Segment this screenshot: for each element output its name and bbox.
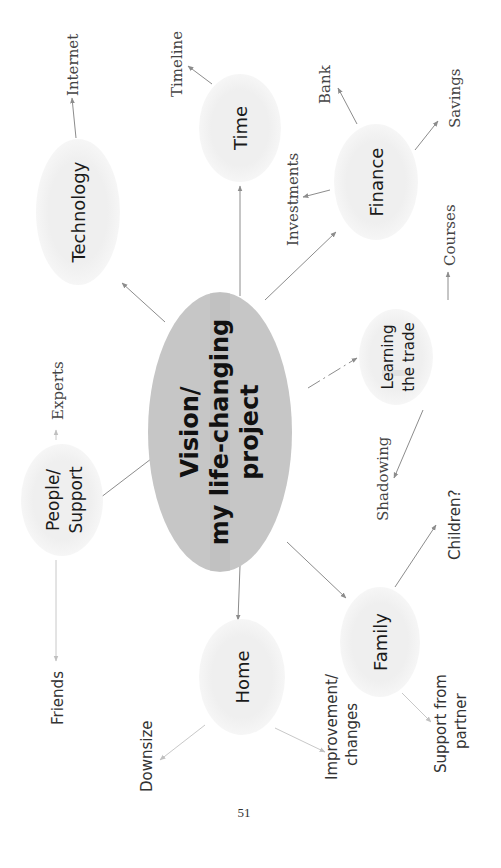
node-label-learning-2: the trade: [400, 322, 418, 391]
page-number: 51: [238, 805, 251, 820]
center-line-1: Vision/: [176, 386, 204, 477]
node-home[interactable]: Home: [199, 619, 285, 735]
node-label-time: Time: [230, 106, 251, 151]
edge-family-children: [395, 525, 436, 587]
edge-home-improvement: [275, 728, 325, 752]
node-label-home: Home: [232, 650, 253, 703]
leaf-shadowing: Shadowing: [374, 436, 392, 521]
leaf-downsize: Downsize: [138, 720, 156, 792]
leaf-internet: Internet: [64, 34, 82, 96]
leaf-courses: Courses: [441, 204, 459, 266]
edge-center-learning: [308, 358, 357, 388]
edge-finance-savings: [415, 121, 438, 150]
edge-center-home: [238, 566, 240, 620]
edge-finance-investments: [303, 190, 330, 197]
node-learning-the-trade[interactable]: Learning the trade: [359, 309, 433, 405]
mind-map: Vision/ my life-changing project Technol…: [0, 0, 501, 868]
edge-home-downsize: [160, 725, 205, 760]
leaf-bank: Bank: [316, 64, 334, 104]
leaf-support-from-partner: Support from partner: [432, 674, 470, 773]
node-label-finance: Finance: [366, 148, 387, 217]
leaf-friends: Friends: [49, 671, 67, 725]
node-label-technology: Technology: [68, 161, 89, 263]
node-family[interactable]: Family: [340, 587, 420, 697]
leaf-experts: Experts: [49, 361, 67, 420]
leaf-children: Children?: [446, 490, 464, 560]
edge-technology-internet: [72, 98, 76, 138]
edge-learning-shadowing: [394, 410, 423, 478]
edge-family-support: [402, 693, 431, 722]
node-time[interactable]: Time: [199, 74, 281, 182]
leaf-investments: Investments: [284, 153, 302, 246]
center-line-2: my life-changing: [206, 319, 234, 545]
center-line-3: project: [236, 384, 264, 480]
edge-time-timeline: [188, 66, 212, 84]
leaf-support-line-1: Support from: [432, 674, 450, 773]
node-technology[interactable]: Technology: [36, 139, 120, 285]
node-label-learning-1: Learning: [379, 324, 397, 389]
leaf-savings: Savings: [446, 69, 464, 128]
leaf-timeline: Timeline: [168, 31, 186, 97]
leaf-support-line-2: partner: [452, 693, 470, 749]
leaf-improvement: Improvement/ changes: [323, 673, 361, 780]
node-label-family: Family: [370, 613, 391, 671]
center-node[interactable]: Vision/ my life-changing project: [148, 292, 292, 572]
node-label-people-2: Support: [66, 466, 86, 534]
node-people-support[interactable]: People/ Support: [21, 444, 103, 556]
edge-center-technology: [122, 283, 165, 322]
leaf-improvement-line-1: Improvement/: [323, 673, 341, 780]
node-label-people-1: People/: [43, 469, 63, 531]
edge-finance-bank: [338, 88, 357, 124]
leaf-improvement-line-2: changes: [343, 703, 361, 766]
node-finance[interactable]: Finance: [334, 124, 418, 240]
edge-center-family: [287, 542, 346, 598]
